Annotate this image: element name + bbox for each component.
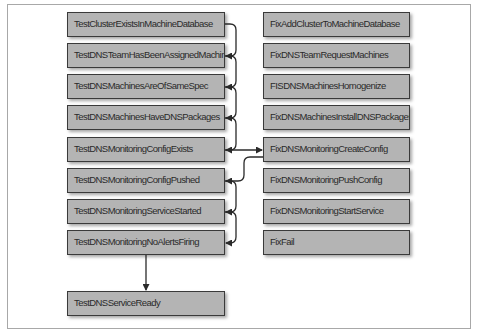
node-fix-homogenize: FISDNSMachinesHomogenize bbox=[263, 74, 410, 99]
node-test-monitoring-no-alerts: TestDNSMonitoringNoAlertsFiring bbox=[67, 230, 225, 255]
node-test-monitoring-config-exists: TestDNSMonitoringConfigExists bbox=[67, 137, 225, 162]
node-fix-create-config: FixDNSMonitoringCreateConfig bbox=[263, 137, 410, 162]
node-test-team-assigned-machines: TestDNSTeamHasBeenAssignedMachines bbox=[67, 43, 225, 68]
node-test-machines-same-spec: TestDNSMachinesAreOfSameSpec bbox=[67, 74, 225, 99]
node-fix-add-cluster: FixAddClusterToMachineDatabase bbox=[263, 12, 410, 37]
node-test-machines-have-packages: TestDNSMachinesHaveDNSPackages bbox=[67, 105, 225, 130]
node-fix-start-service: FixDNSMonitoringStartService bbox=[263, 199, 410, 224]
node-fix-install-packages: FixDNSMachinesInstallDNSPackages bbox=[263, 105, 410, 130]
node-test-cluster-exists: TestClusterExistsInMachineDatabase bbox=[67, 12, 225, 37]
node-test-service-ready: TestDNSServiceReady bbox=[67, 291, 225, 316]
node-test-monitoring-config-pushed: TestDNSMonitoringConfigPushed bbox=[67, 168, 225, 193]
node-fix-request-machines: FixDNSTeamRequestMachines bbox=[263, 43, 410, 68]
node-fix-fail: FixFail bbox=[263, 230, 410, 255]
node-fix-push-config: FixDNSMonitoringPushConfig bbox=[263, 168, 410, 193]
node-test-monitoring-service-started: TestDNSMonitoringServiceStarted bbox=[67, 199, 225, 224]
